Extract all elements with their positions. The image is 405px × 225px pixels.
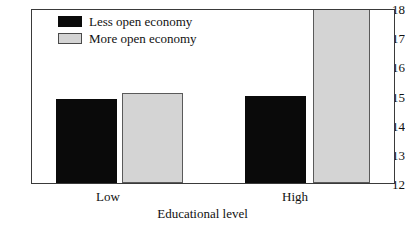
legend-label-less-open: Less open economy [89,15,192,28]
x-axis-title: Educational level [0,207,405,221]
x-tick-label-low: Low [78,190,138,204]
x-tick-label-high: High [265,190,325,204]
legend-label-more-open: More open economy [89,32,197,45]
bar-low-more-open [122,93,183,183]
legend-item-less-open: Less open economy [58,14,197,29]
bar-chart: 18 17 16 15 14 13 12 Less open economy [0,0,405,225]
legend: Less open economy More open economy [58,14,197,48]
plot-area: Less open economy More open economy [31,9,395,184]
bar-high-more-open [313,9,370,183]
bar-low-less-open [56,99,117,183]
legend-swatch-dark-icon [58,16,82,27]
legend-swatch-light-icon [58,33,82,44]
bar-high-less-open [245,96,306,183]
legend-item-more-open: More open economy [58,31,197,46]
